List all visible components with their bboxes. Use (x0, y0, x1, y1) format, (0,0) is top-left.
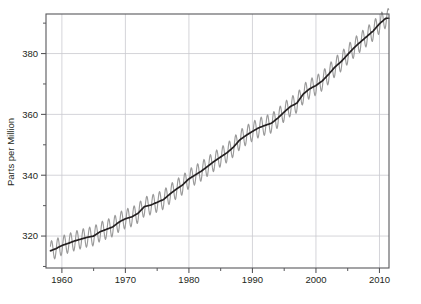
y-axis-tick-labels: 320340360380 (22, 48, 38, 242)
y-tick-label: 340 (22, 170, 38, 181)
x-axis-tick-labels: 196019701980199020002010 (51, 274, 390, 285)
caption-crop (0, 297, 421, 304)
x-tick-label: 1980 (178, 274, 199, 285)
y-tick-label: 320 (22, 230, 38, 241)
y-axis-title: Parts per Million (5, 118, 16, 186)
x-tick-label: 1970 (115, 274, 136, 285)
x-tick-label: 1990 (242, 274, 263, 285)
co2-line-chart: 196019701980199020002010 320340360380 Pa… (0, 0, 421, 304)
x-tick-label: 2000 (305, 274, 326, 285)
y-tick-label: 360 (22, 109, 38, 120)
x-tick-label: 2010 (369, 274, 390, 285)
x-tick-label: 1960 (51, 274, 72, 285)
figure-container: 196019701980199020002010 320340360380 Pa… (0, 0, 421, 304)
y-tick-label: 380 (22, 48, 38, 59)
